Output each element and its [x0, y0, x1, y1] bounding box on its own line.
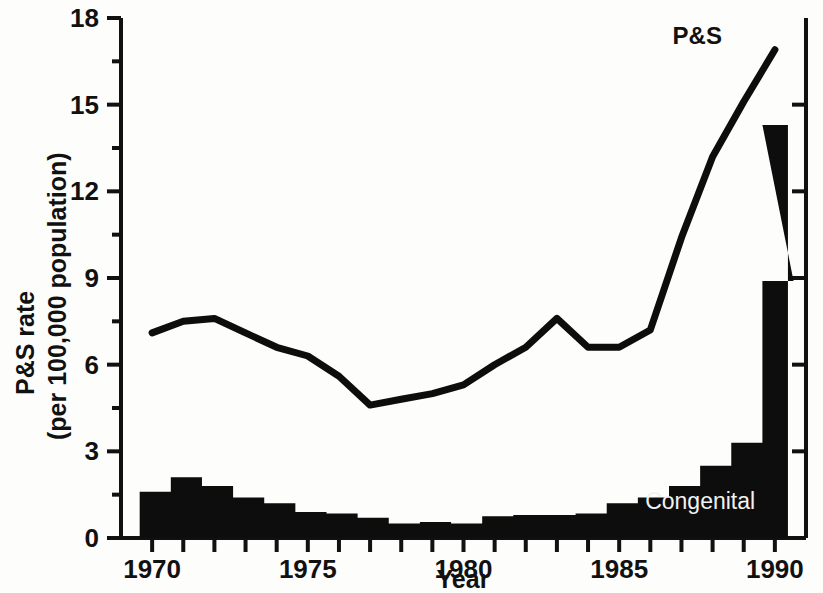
y-tick-label: 6 — [85, 350, 99, 380]
x-tick-label: 1985 — [590, 554, 648, 584]
y-tick-label: 9 — [85, 263, 99, 293]
ps-congenital-rate-chart: P&S rate (per 100,000 population) 036912… — [0, 0, 823, 593]
x-tick-label: 1975 — [279, 554, 337, 584]
y-axis-title-line2: (per 100,000 population) — [43, 152, 71, 440]
y-axis-title: P&S rate (per 100,000 population) — [11, 152, 71, 440]
x-tick-label: 1990 — [746, 554, 804, 584]
y-axis-title-line1: P&S rate — [11, 291, 39, 395]
x-tick-label: 1970 — [123, 554, 181, 584]
y-tick-label: 0 — [85, 523, 99, 553]
x-axis-title: Year — [437, 565, 490, 593]
ps-line-series — [152, 50, 775, 405]
y-tick-label: 15 — [70, 90, 99, 120]
congenital-series-label: Congenital — [645, 488, 755, 514]
y-tick-label: 18 — [70, 3, 99, 33]
y-tick-label: 3 — [85, 436, 99, 466]
y-tick-label: 12 — [70, 176, 99, 206]
right-axis-ticks — [792, 105, 806, 452]
x-axis-ticks — [152, 538, 775, 552]
y-axis-major-ticks: 0369121518 — [70, 3, 121, 553]
ps-series-label: P&S — [673, 22, 722, 49]
